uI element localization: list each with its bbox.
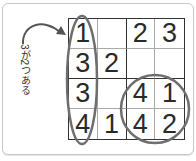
cell-r3-c1: 3 — [69, 79, 98, 109]
cell-r1-c2 — [98, 19, 127, 49]
cell-r1-c4: 3 — [155, 19, 184, 49]
cell-r3-c4: 1 — [155, 79, 184, 109]
cell-r1-c1: 1 — [69, 19, 98, 49]
cell-r4-c4: 2 — [155, 109, 184, 139]
cell-r2-c4 — [155, 49, 184, 79]
cell-r1-c3: 2 — [127, 19, 156, 49]
sudoku-grid: 1 2 3 3 2 3 4 1 4 1 4 2 — [68, 18, 185, 140]
cell-r2-c3 — [127, 49, 156, 79]
cell-r2-c1: 3 — [69, 49, 98, 79]
cell-r4-c1: 4 — [69, 109, 98, 139]
cell-r3-c2 — [98, 79, 127, 109]
cell-r4-c3: 4 — [127, 109, 156, 139]
cell-r4-c2: 1 — [98, 109, 127, 139]
cell-r2-c2: 2 — [98, 49, 127, 79]
cell-r3-c3: 4 — [127, 79, 156, 109]
annotation-label: 3が2つある — [18, 44, 30, 95]
